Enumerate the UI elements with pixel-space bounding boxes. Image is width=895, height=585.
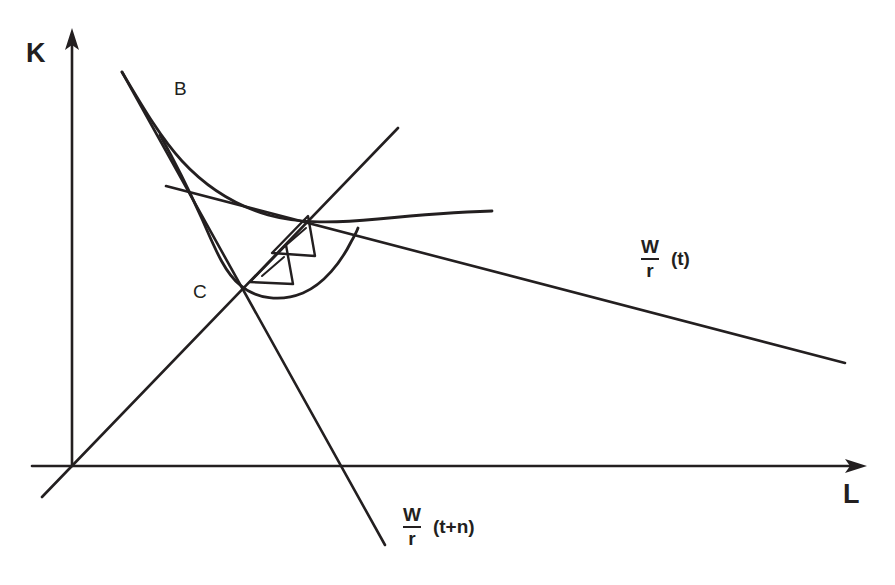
isocost-t-argument: (t) xyxy=(671,249,690,268)
isocost-tn-line xyxy=(122,72,385,545)
expansion-ray-group xyxy=(42,128,398,497)
axes-group xyxy=(32,28,867,473)
point-c-label: C xyxy=(193,282,207,301)
isocost-tn-numerator: W xyxy=(398,505,426,526)
l-axis-label: L xyxy=(843,481,860,508)
isoquant-isocost-figure: K L B C W r (t) W r (t+n) xyxy=(0,0,895,585)
figure-canvas xyxy=(0,0,895,585)
isocost-t-denominator: r xyxy=(641,258,658,281)
point-b-label: B xyxy=(174,79,187,98)
isocost-t-fraction: W r xyxy=(636,237,664,281)
isocost-t-numerator: W xyxy=(636,237,664,258)
k-axis-label: K xyxy=(26,40,46,67)
isocost-tn-denominator: r xyxy=(403,526,420,549)
direction-markers-group xyxy=(250,216,315,284)
isocost-tn-argument: (t+n) xyxy=(433,517,475,536)
isocost-tn-group xyxy=(122,72,385,545)
isocost-t-label: W r (t) xyxy=(636,237,690,281)
direction-arrow-lower-icon xyxy=(250,245,293,284)
expansion-ray-line xyxy=(42,128,398,497)
isocost-tn-label: W r (t+n) xyxy=(398,505,475,549)
isocost-tn-fraction: W r xyxy=(398,505,426,549)
